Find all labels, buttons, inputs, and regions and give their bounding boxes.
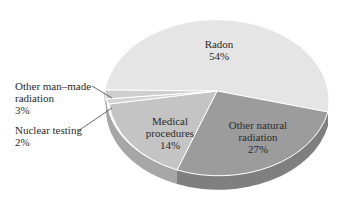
label-nuclear: Nuclear testing 2%: [15, 124, 105, 148]
label-other-manmade: Other man–made radiation 3%: [15, 80, 105, 116]
label-other-natural: Other natural radiation 27%: [218, 119, 298, 155]
label-radon: Radon 54%: [196, 38, 242, 62]
label-medical: Medical procedures 14%: [138, 115, 202, 151]
